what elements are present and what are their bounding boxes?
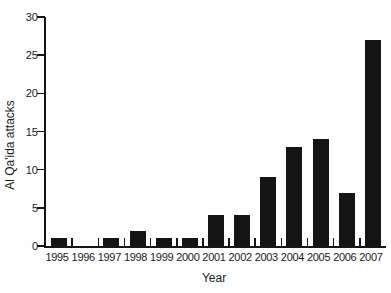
y-axis-tick xyxy=(37,169,45,171)
bar-1999 xyxy=(156,238,172,246)
x-axis-tick xyxy=(98,238,100,246)
bar-1998 xyxy=(130,231,146,246)
bar-2000 xyxy=(182,238,198,246)
y-axis-tick xyxy=(37,245,45,247)
bar-2007 xyxy=(365,40,381,246)
y-tick-label: 10 xyxy=(0,164,38,176)
x-axis-tick xyxy=(254,238,256,246)
y-axis-tick xyxy=(37,93,45,95)
bar-2003 xyxy=(260,177,276,246)
x-axis-tick xyxy=(176,238,178,246)
y-axis-tick xyxy=(37,16,45,18)
x-axis-tick xyxy=(281,238,283,246)
y-axis-tick xyxy=(37,131,45,133)
x-axis-tick xyxy=(202,238,204,246)
y-tick-label: 20 xyxy=(0,87,38,99)
y-tick-label: 5 xyxy=(0,202,38,214)
bar-2002 xyxy=(234,215,250,246)
y-axis-tick xyxy=(37,54,45,56)
y-tick-label: 30 xyxy=(0,11,38,23)
bar-2001 xyxy=(208,215,224,246)
x-axis-tick xyxy=(359,238,361,246)
x-axis-title: Year xyxy=(44,271,384,285)
bar-1995 xyxy=(51,238,67,246)
x-axis-tick xyxy=(333,238,335,246)
x-axis-tick xyxy=(307,238,309,246)
y-axis-tick xyxy=(37,207,45,209)
x-axis-tick xyxy=(71,238,73,246)
y-tick-label: 15 xyxy=(0,126,38,138)
bar-chart-figure: Al Qa'ida attacks Year 05101520253019951… xyxy=(0,0,391,293)
y-tick-label: 0 xyxy=(0,240,38,252)
bar-1997 xyxy=(103,238,119,246)
x-axis-tick xyxy=(228,238,230,246)
bar-2005 xyxy=(313,139,329,246)
x-axis-tick xyxy=(150,238,152,246)
bar-2004 xyxy=(286,147,302,246)
y-tick-label: 25 xyxy=(0,49,38,61)
bar-2006 xyxy=(339,193,355,246)
x-axis-tick xyxy=(124,238,126,246)
x-tick-label: 2007 xyxy=(355,251,387,263)
plot-area xyxy=(44,17,386,248)
y-axis-title: Al Qa'ida attacks xyxy=(3,100,17,190)
